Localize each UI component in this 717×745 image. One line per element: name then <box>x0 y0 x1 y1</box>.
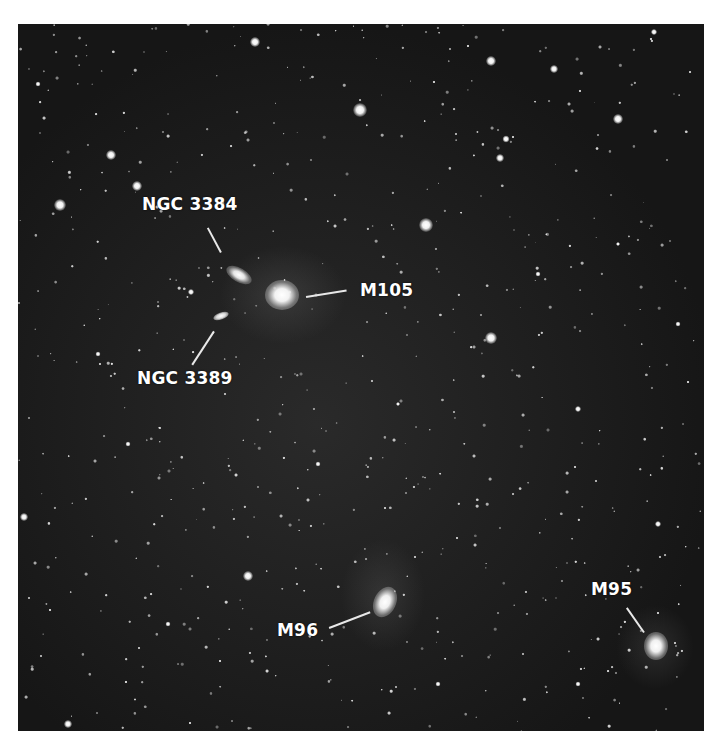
faint-star <box>354 560 357 563</box>
faint-star <box>633 81 636 84</box>
faint-star <box>233 298 235 300</box>
faint-star <box>401 46 404 49</box>
faint-star <box>352 508 355 511</box>
faint-star <box>611 665 614 668</box>
faint-star <box>328 665 330 667</box>
faint-star <box>580 261 584 265</box>
faint-star <box>629 571 631 573</box>
faint-star <box>680 649 683 652</box>
faint-star <box>232 26 235 29</box>
faint-star <box>657 611 660 614</box>
faint-star <box>594 480 597 483</box>
faint-star <box>452 641 454 643</box>
faint-star <box>680 585 682 587</box>
faint-star <box>645 374 648 377</box>
faint-star <box>455 139 457 141</box>
faint-star <box>280 376 283 379</box>
faint-star <box>124 131 126 133</box>
faint-star <box>154 27 157 30</box>
faint-star <box>37 355 39 357</box>
faint-star <box>532 366 534 368</box>
galaxy-m105 <box>265 280 299 310</box>
faint-star <box>256 486 259 489</box>
faint-star <box>28 67 30 69</box>
faint-star <box>30 668 34 672</box>
faint-star <box>323 136 327 140</box>
faint-star <box>96 712 98 714</box>
faint-star <box>40 655 43 658</box>
faint-star <box>52 33 55 36</box>
faint-star <box>19 47 23 51</box>
faint-star <box>134 69 138 73</box>
faint-star <box>161 515 164 518</box>
faint-star <box>172 468 174 470</box>
faint-star <box>182 287 186 291</box>
faint-star <box>580 72 583 75</box>
faint-star <box>567 102 571 106</box>
faint-star <box>337 585 341 589</box>
faint-star <box>268 491 271 494</box>
faint-star <box>501 184 505 188</box>
faint-star <box>295 567 297 569</box>
label-m105: M105 <box>360 280 413 300</box>
bright-star <box>126 442 131 447</box>
faint-star <box>598 442 600 444</box>
faint-star <box>639 468 641 470</box>
star-field-photograph: NGC 3384 M105 NGC 3389 M96 M95 <box>18 24 704 731</box>
faint-star <box>228 628 230 630</box>
faint-star <box>235 356 237 358</box>
faint-star <box>88 672 92 676</box>
faint-star <box>246 535 249 538</box>
faint-star <box>438 271 440 273</box>
faint-star <box>664 708 667 711</box>
faint-star <box>649 228 651 230</box>
faint-star <box>686 381 689 384</box>
faint-star <box>202 482 205 485</box>
faint-star <box>175 280 177 282</box>
faint-star <box>471 80 473 82</box>
faint-star <box>96 240 100 244</box>
faint-star <box>295 582 298 585</box>
faint-star <box>499 526 502 529</box>
faint-star <box>322 523 324 525</box>
faint-star <box>243 440 245 442</box>
faint-star <box>100 610 102 612</box>
faint-star <box>526 612 529 615</box>
faint-star <box>665 158 668 161</box>
faint-star <box>124 680 127 683</box>
faint-star <box>346 725 349 728</box>
faint-star <box>460 211 463 214</box>
faint-star <box>457 502 460 505</box>
faint-star <box>509 216 511 218</box>
faint-star <box>689 71 692 74</box>
faint-star <box>81 653 84 656</box>
faint-star <box>509 140 512 143</box>
faint-star <box>333 194 335 196</box>
faint-star <box>212 526 215 529</box>
faint-star <box>574 169 578 173</box>
bright-star <box>250 37 260 47</box>
faint-star <box>71 715 73 717</box>
faint-star <box>643 202 645 204</box>
faint-star <box>517 375 521 379</box>
faint-star <box>192 351 195 354</box>
faint-star <box>520 445 523 448</box>
faint-star <box>243 505 246 508</box>
faint-star <box>310 159 313 162</box>
faint-star <box>229 469 232 472</box>
faint-star <box>371 379 374 382</box>
faint-star <box>573 326 576 329</box>
faint-star <box>414 687 417 690</box>
faint-star <box>613 510 615 512</box>
faint-star <box>113 372 117 376</box>
faint-star <box>42 452 45 455</box>
faint-star <box>374 240 378 244</box>
faint-star <box>128 620 132 624</box>
faint-star <box>177 663 179 665</box>
faint-star <box>545 599 548 602</box>
faint-star <box>485 690 487 692</box>
faint-star <box>209 692 212 695</box>
faint-star <box>133 712 136 715</box>
faint-star <box>386 553 388 555</box>
faint-star <box>134 698 136 700</box>
